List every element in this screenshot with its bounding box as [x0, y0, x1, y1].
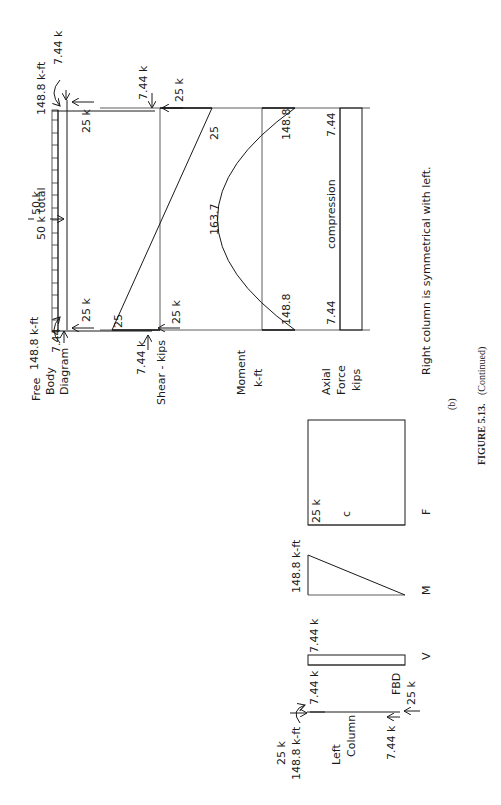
m-label: M [420, 586, 433, 596]
moment-unit-label: k-ft [252, 368, 265, 387]
left-vertical-label: 25 k [80, 298, 93, 322]
right-horizontal-label: 7.44 k [52, 30, 65, 65]
m-value: 148.8 k-ft [290, 539, 303, 593]
part-label: (b) [446, 398, 458, 410]
distributed-load-band [52, 110, 58, 332]
fbd-label-free: Free [30, 377, 43, 401]
axial-unit-label: kips [350, 369, 363, 391]
right-horizontal-reaction: 7.44 k [137, 65, 150, 100]
left-vertical-reaction: 25 k [170, 300, 183, 324]
left-column-analysis: Left Column FBD 25 k 148.8 k-ft 7.44 k 7… [275, 420, 433, 780]
column-top-moment: 148.8 k-ft [290, 726, 303, 780]
fbd-label-diagram: Diagram [58, 348, 71, 395]
axial-right-value: 7.44 [325, 113, 338, 138]
f-value: 25 k [310, 499, 323, 523]
right-vertical-reaction: 25 k [173, 78, 186, 102]
moment-left-value: 148.8 [280, 294, 293, 326]
v-label: V [420, 652, 433, 660]
symmetry-note: Right column is symmetrical with left. [420, 166, 433, 375]
shear-right-value: 25 [208, 126, 221, 140]
column-top-moment-arrow-icon [296, 705, 305, 723]
right-moment-label: 148.8 k-ft [35, 61, 48, 115]
right-vertical-label: 25 k [80, 109, 93, 133]
axial-left-value: 7.44 [325, 301, 338, 326]
right-moment-arrow-icon [54, 80, 60, 106]
figure-number: FIGURE 5.13. [476, 403, 487, 465]
moment-mid-value: 163.7 [208, 204, 221, 236]
axial-note: compression [325, 179, 338, 249]
fbd-label-body: Body [44, 367, 57, 395]
m-diagram [308, 555, 405, 595]
distributed-load-ticks [52, 120, 58, 320]
axial-force-label: Force [335, 365, 348, 395]
moment-right-value: 148.8 [280, 109, 293, 141]
column-top-horizontal: 7.44 k [308, 670, 321, 705]
figure-rotated: 50 k total 7.44 k 25 k 7.44 k 25 k Free … [0, 0, 501, 805]
column-label-fbd: FBD [390, 673, 403, 695]
figure-canvas: 50 k total 7.44 k 25 k 7.44 k 25 k Free … [0, 0, 501, 805]
left-horizontal-reaction: 7.44 k [135, 340, 148, 375]
column-top-vertical: 25 k [275, 741, 288, 765]
column-label-column: Column [345, 715, 358, 757]
moment-label: Moment [235, 349, 248, 395]
f-label: F [420, 509, 433, 515]
shear-label: Shear - kips [155, 340, 168, 405]
column-bottom-vertical: 25 k [405, 681, 418, 705]
figure-continued: (Continued) [476, 347, 488, 395]
shear-left-value: 25 [112, 314, 125, 328]
f-note: c [340, 511, 353, 517]
v-value: 7.44 k [308, 618, 321, 653]
point-load-label: 50 k [30, 191, 43, 215]
axial-label: Axial [320, 368, 333, 395]
left-horizontal-label: 7.44 [50, 329, 63, 354]
v-diagram [308, 655, 405, 665]
left-moment-label: 148.8 k-ft [28, 316, 41, 370]
column-label-left: Left [330, 744, 343, 765]
axial-box [340, 108, 362, 330]
column-bottom-horizontal: 7.44 k [385, 725, 398, 760]
beam-analysis: Free Body Diagram Shear - kips Moment k-… [28, 30, 433, 405]
shear-line [112, 108, 212, 330]
